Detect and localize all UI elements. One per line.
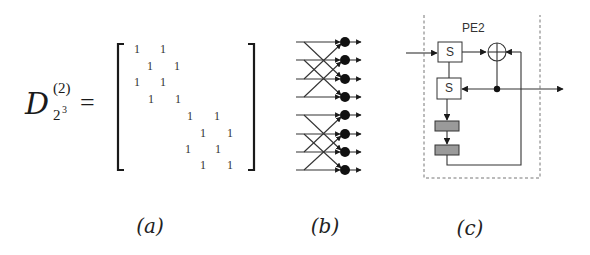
caption-c: (c) <box>457 215 484 241</box>
butterfly-group-2 <box>296 115 341 170</box>
node-dot <box>340 147 350 157</box>
pe2-circuit <box>406 52 563 165</box>
pe2-title: PE2 <box>462 21 485 35</box>
butterfly-nodes <box>340 37 350 175</box>
caption-c-text: (c) <box>457 216 484 240</box>
node-dot <box>340 74 350 84</box>
matrix-left-bracket <box>118 44 124 170</box>
register-s2-label: S <box>445 81 453 95</box>
node-dot <box>340 129 350 139</box>
node-dot <box>340 110 350 120</box>
butterfly-outputs <box>348 42 361 170</box>
node-dot <box>340 165 350 175</box>
figure-graphics <box>0 0 590 255</box>
butterfly-network <box>296 42 361 170</box>
caption-b-text: (b) <box>311 214 339 238</box>
butterfly-group-1 <box>296 42 341 97</box>
delay-block-2 <box>435 145 459 155</box>
register-s1-label: S <box>446 45 454 59</box>
caption-b: (b) <box>311 213 339 239</box>
xor-adder-icon <box>488 43 506 61</box>
matrix-right-bracket <box>248 44 254 170</box>
delay-block-1 <box>435 121 459 131</box>
node-dot <box>340 37 350 47</box>
node-dot <box>340 92 350 102</box>
node-dot <box>340 55 350 65</box>
junction-dot <box>494 86 500 92</box>
